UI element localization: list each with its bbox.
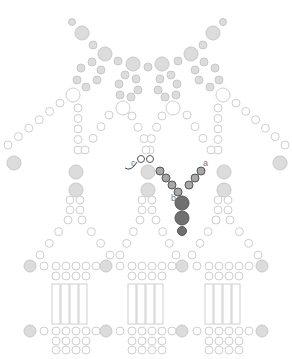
- bead: [88, 58, 96, 66]
- bead: [74, 115, 82, 123]
- bugle-bead: [137, 284, 145, 324]
- bead: [46, 107, 54, 115]
- bead: [45, 239, 53, 247]
- bead: [165, 239, 173, 247]
- bead: [148, 196, 156, 204]
- bead: [89, 134, 97, 142]
- bead: [273, 156, 287, 170]
- bead: [225, 346, 233, 354]
- label-c: c: [131, 158, 136, 168]
- bead: [114, 57, 122, 65]
- bead: [147, 135, 155, 143]
- bead: [188, 251, 196, 259]
- bead: [252, 116, 260, 124]
- bead: [158, 262, 166, 270]
- bead: [242, 107, 250, 115]
- label-a: a: [203, 158, 208, 168]
- bead: [69, 183, 83, 197]
- bead: [205, 272, 213, 280]
- bead: [152, 216, 160, 224]
- bead: [72, 327, 80, 335]
- bead: [138, 346, 146, 354]
- bead: [200, 58, 208, 66]
- bead: [52, 262, 60, 270]
- bead: [168, 181, 176, 189]
- bead: [97, 123, 105, 131]
- bead: [175, 196, 189, 210]
- bead: [82, 346, 90, 354]
- bead: [217, 183, 231, 197]
- bead: [76, 206, 84, 214]
- bead: [74, 125, 82, 133]
- bead: [24, 325, 36, 337]
- bead: [77, 64, 85, 72]
- bead: [207, 146, 215, 154]
- bead: [82, 272, 90, 280]
- bead: [66, 206, 74, 214]
- bead: [172, 251, 180, 259]
- bead: [155, 57, 169, 71]
- bead: [144, 63, 152, 71]
- bead: [225, 272, 233, 280]
- bead: [214, 125, 222, 133]
- bead: [191, 174, 199, 182]
- bead: [235, 346, 243, 354]
- bead: [138, 262, 146, 270]
- bead: [215, 337, 223, 345]
- bead: [224, 206, 232, 214]
- bead: [148, 272, 156, 280]
- bead: [97, 66, 105, 74]
- bead: [72, 337, 80, 345]
- bead: [74, 136, 82, 144]
- bead: [75, 26, 89, 40]
- bead: [52, 337, 60, 345]
- bead: [175, 211, 189, 225]
- bead: [159, 228, 167, 236]
- bugle-bead: [128, 284, 136, 324]
- bead: [62, 262, 70, 270]
- bead: [215, 262, 223, 270]
- label-b: b: [171, 193, 176, 203]
- bead: [193, 262, 201, 270]
- bead: [92, 327, 100, 335]
- bead: [142, 146, 150, 154]
- bead: [215, 327, 223, 335]
- bead: [115, 80, 123, 88]
- bead: [148, 346, 156, 354]
- bead: [166, 101, 180, 115]
- bugle-bead: [52, 284, 60, 324]
- bead: [148, 337, 156, 345]
- bead: [214, 206, 222, 214]
- ghost-beads: [4, 19, 289, 355]
- bead: [214, 104, 222, 112]
- bead: [72, 346, 80, 354]
- bead: [76, 196, 84, 204]
- bead: [232, 99, 240, 107]
- bead: [235, 262, 243, 270]
- beadwork-diagram: a b c: [0, 0, 292, 359]
- bead: [245, 262, 253, 270]
- bead: [62, 272, 70, 280]
- bead: [148, 262, 156, 270]
- bead: [82, 337, 90, 345]
- bead: [82, 262, 90, 270]
- bead: [138, 196, 146, 204]
- bead: [148, 327, 156, 335]
- bead: [7, 156, 21, 170]
- bugle-bead: [79, 284, 87, 324]
- bead: [82, 83, 90, 91]
- bead: [56, 99, 64, 107]
- bead: [154, 86, 162, 94]
- bead: [256, 260, 268, 272]
- bead: [4, 141, 12, 149]
- bead: [35, 116, 43, 124]
- bead: [172, 91, 180, 99]
- bead: [215, 76, 223, 84]
- bead: [82, 327, 90, 335]
- bead: [161, 93, 169, 101]
- bead: [116, 327, 124, 335]
- bead: [141, 183, 155, 197]
- bead: [97, 239, 105, 247]
- bead: [62, 346, 70, 354]
- bugle-bead: [214, 284, 222, 324]
